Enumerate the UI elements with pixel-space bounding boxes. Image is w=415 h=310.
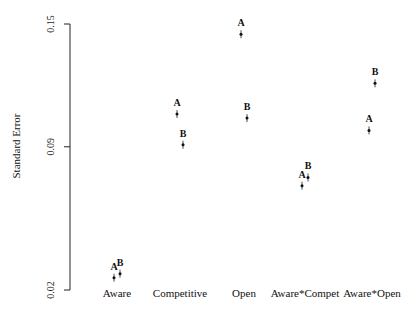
x-category-label: Open [232,287,256,299]
series-marker-label: B [305,160,312,171]
data-points: AAAAABBBBB [110,17,378,281]
series-marker-label: A [173,97,181,108]
data-point: B [372,66,379,87]
y-axis-label: Standard Error [10,113,22,178]
y-tick-label: 0.02 [45,281,56,299]
data-point: A [237,17,245,38]
data-point: A [298,169,306,190]
data-point: B [305,160,312,181]
data-point: A [365,113,373,134]
data-point: B [117,257,124,278]
series-marker-label: B [117,257,124,268]
x-category-label: Aware*Compet [271,287,340,299]
series-marker-label: A [237,17,245,28]
series-marker-label: A [365,113,373,124]
x-category-label: Competitive [153,287,208,299]
y-tick-label: 0.09 [45,138,56,156]
y-axis: 0.020.090.15 [45,15,70,299]
data-point: A [173,97,181,118]
series-marker-label: B [372,66,379,77]
series-marker-label: B [180,128,187,139]
x-category-label: Aware [103,287,131,299]
data-point: B [244,101,251,122]
data-point: B [180,128,187,149]
x-category-labels: AwareCompetitiveOpenAware*CompetAware*Op… [103,287,401,299]
y-tick-label: 0.15 [45,15,56,33]
series-marker-label: B [244,101,251,112]
x-category-label: Aware*Open [343,287,401,299]
standard-error-chart: 0.020.090.15 AAAAABBBBB AwareCompetitive… [0,0,415,310]
